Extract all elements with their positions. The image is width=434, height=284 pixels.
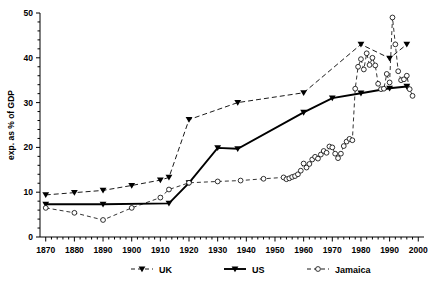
data-point-marker bbox=[298, 168, 303, 173]
chart-container: exp. as % of GDP 01020304050 18701880189… bbox=[0, 0, 434, 284]
data-point-marker bbox=[330, 145, 335, 150]
x-axis-tick-label: 1880 bbox=[65, 245, 84, 255]
data-point-marker bbox=[101, 218, 106, 223]
y-axis-tick-label: 0 bbox=[28, 232, 33, 242]
x-axis-tick-label: 1980 bbox=[351, 245, 370, 255]
data-point-marker bbox=[410, 93, 415, 98]
x-axis-tick-label: 1970 bbox=[323, 245, 342, 255]
x-axis-tick-label: 1950 bbox=[266, 245, 285, 255]
x-axis-tick-label: 1990 bbox=[380, 245, 399, 255]
y-axis: 01020304050 bbox=[24, 8, 40, 242]
series-us bbox=[42, 84, 410, 208]
data-point-marker bbox=[333, 151, 338, 156]
data-point-marker bbox=[350, 138, 355, 143]
data-point-marker bbox=[381, 86, 386, 91]
data-point-marker bbox=[215, 179, 220, 184]
data-point-marker bbox=[186, 117, 193, 123]
y-axis-label-text: exp. as % of GDP bbox=[6, 90, 16, 160]
legend-item-jamaica: Jamaica bbox=[307, 265, 372, 275]
data-point-marker bbox=[361, 67, 366, 72]
data-point-marker bbox=[353, 86, 358, 91]
legend-label: Jamaica bbox=[335, 265, 372, 275]
data-point-marker bbox=[42, 192, 49, 198]
data-point-marker bbox=[359, 57, 364, 62]
expenditure-line-chart: exp. as % of GDP 01020304050 18701880189… bbox=[0, 0, 434, 284]
y-axis-tick-label: 50 bbox=[24, 8, 34, 18]
data-point-marker bbox=[341, 144, 346, 149]
data-point-marker bbox=[356, 64, 361, 69]
x-axis-tick-label: 1900 bbox=[122, 245, 141, 255]
data-point-marker bbox=[373, 63, 378, 68]
legend-label: US bbox=[252, 265, 265, 275]
data-point-marker bbox=[390, 15, 395, 20]
data-series-layer bbox=[42, 15, 415, 222]
x-axis: 1870188018901900191019201930194019501960… bbox=[36, 237, 428, 255]
data-point-marker bbox=[238, 178, 243, 183]
data-point-marker bbox=[307, 162, 312, 167]
data-point-marker bbox=[187, 180, 192, 185]
data-point-marker bbox=[367, 63, 372, 68]
data-point-marker bbox=[338, 151, 343, 156]
legend-item-uk: UK bbox=[131, 265, 172, 275]
data-point-marker bbox=[261, 176, 266, 181]
data-point-marker bbox=[364, 51, 369, 56]
data-point-marker bbox=[404, 73, 409, 78]
x-axis-tick-label: 1920 bbox=[180, 245, 199, 255]
y-axis-tick-label: 40 bbox=[24, 53, 34, 63]
legend-item-us: US bbox=[224, 265, 265, 275]
x-axis-tick-label: 1930 bbox=[208, 245, 227, 255]
data-point-marker bbox=[396, 69, 401, 74]
data-point-marker bbox=[234, 100, 241, 106]
data-point-marker bbox=[387, 80, 392, 85]
data-point-marker bbox=[376, 81, 381, 86]
data-point-marker bbox=[324, 150, 329, 155]
data-point-marker bbox=[384, 72, 389, 77]
data-point-marker bbox=[167, 187, 172, 192]
data-point-marker bbox=[403, 42, 410, 48]
data-point-marker bbox=[336, 156, 341, 161]
data-point-marker bbox=[393, 42, 398, 47]
series-uk bbox=[42, 42, 410, 198]
x-axis-tick-label: 1870 bbox=[36, 245, 55, 255]
x-axis-tick-label: 1940 bbox=[237, 245, 256, 255]
data-point-marker bbox=[129, 205, 134, 210]
series-path-uk bbox=[46, 44, 407, 195]
y-axis-tick-label: 10 bbox=[24, 187, 34, 197]
chart-legend: UKUSJamaica bbox=[131, 265, 372, 275]
y-axis-label: exp. as % of GDP bbox=[6, 90, 16, 160]
x-axis-tick-label: 1910 bbox=[151, 245, 170, 255]
data-point-marker bbox=[386, 56, 393, 62]
legend-label: UK bbox=[159, 265, 172, 275]
data-point-marker bbox=[370, 55, 375, 60]
data-point-marker bbox=[300, 90, 307, 96]
data-point-marker bbox=[72, 210, 77, 215]
x-axis-tick-label: 1890 bbox=[94, 245, 113, 255]
series-path-us bbox=[46, 86, 407, 204]
legend-marker bbox=[316, 267, 321, 272]
y-axis-tick-label: 20 bbox=[24, 142, 34, 152]
x-axis-tick-label: 1960 bbox=[294, 245, 313, 255]
x-axis-tick-label: 2000 bbox=[409, 245, 428, 255]
data-point-marker bbox=[43, 205, 48, 210]
y-axis-tick-label: 30 bbox=[24, 98, 34, 108]
data-point-marker bbox=[407, 87, 412, 92]
data-point-marker bbox=[158, 195, 163, 200]
data-point-marker bbox=[358, 42, 365, 48]
data-point-marker bbox=[100, 188, 107, 194]
